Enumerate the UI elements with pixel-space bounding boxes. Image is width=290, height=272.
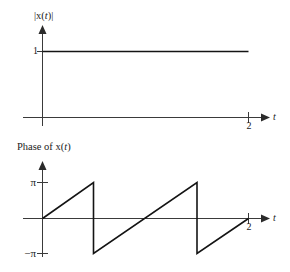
phase-x-axis-label: t xyxy=(273,212,276,223)
phase-plot-title-prefix: Phase of x( xyxy=(17,141,64,152)
phase-xtick-label-2: 2 xyxy=(243,221,255,232)
magnitude-x-axis-label: t xyxy=(273,111,276,122)
phase-x-axis-arrow-icon xyxy=(261,215,270,223)
phase-y-axis-arrow-icon xyxy=(39,161,47,170)
magnitude-axis-title-suffix: )| xyxy=(48,10,54,21)
phase-ytick-label-pi: π xyxy=(22,176,36,188)
phase-plot xyxy=(0,136,290,272)
phase-plot-title: Phase of x(t) xyxy=(17,141,71,152)
phase-ytick-label-neg-pi: −π xyxy=(16,247,36,259)
magnitude-ytick-label-1: 1 xyxy=(26,45,38,56)
magnitude-axis-title: |x(t)| xyxy=(34,10,53,21)
phase-plot-title-suffix: ) xyxy=(67,141,71,152)
magnitude-xtick-label-2: 2 xyxy=(243,120,255,131)
magnitude-y-axis-arrow-icon xyxy=(39,25,47,34)
magnitude-axis-title-prefix: |x( xyxy=(34,10,45,21)
magnitude-x-axis-arrow-icon xyxy=(261,114,270,122)
signal-figure: |x(t)| 1 2 t Phase of x(t) π −π 2 t xyxy=(0,0,290,272)
